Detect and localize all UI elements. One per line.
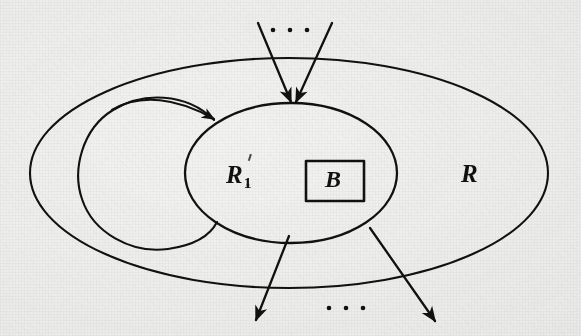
left-loop-curve [78, 98, 217, 250]
incoming-arrow-left [258, 23, 291, 102]
label-R1-subscript: 1 [243, 174, 252, 191]
diagram-canvas [0, 0, 581, 336]
outgoing-arrow-left [256, 236, 289, 320]
outgoing-arrow-right [370, 228, 435, 321]
bottom-ellipsis-dots [327, 306, 366, 311]
loop-arrow [112, 100, 214, 119]
label-B: B [325, 167, 341, 191]
label-R1-base: R [226, 161, 243, 188]
label-R1: R1 [226, 162, 251, 190]
set-diagram-figure: R1 B R [0, 0, 581, 336]
top-ellipsis-dots [271, 28, 310, 33]
incoming-arrow-right [296, 23, 332, 102]
label-R: R [461, 161, 478, 186]
